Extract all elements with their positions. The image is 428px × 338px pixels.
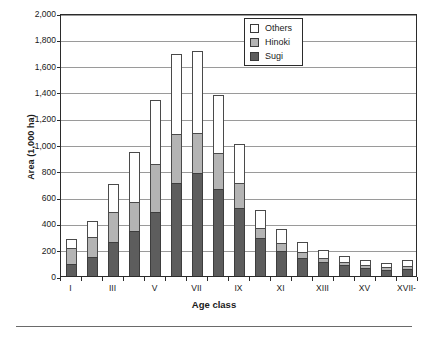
x-axis-tick — [144, 277, 145, 281]
bar-segment-hinoki — [234, 183, 246, 207]
legend-item-hinoki: Hinoki — [250, 37, 292, 47]
bar-XIII — [318, 250, 330, 276]
x-axis-tick-label: VII — [191, 283, 201, 293]
bar-segment-others — [150, 100, 162, 164]
legend-item-others: Others — [250, 23, 292, 33]
y-axis-tick-label: 600 — [2, 193, 56, 203]
x-axis-tick — [102, 277, 103, 281]
x-axis-tick — [354, 277, 355, 281]
x-axis-tick — [60, 277, 61, 281]
bar-series-group — [61, 15, 416, 276]
bar-segment-sugi — [297, 258, 309, 276]
legend-item-label: Hinoki — [265, 37, 290, 47]
bar-VI — [171, 54, 183, 276]
y-axis-tick-label: 1,400 — [2, 88, 56, 98]
x-axis-tick-label: XV — [359, 283, 370, 293]
y-axis-tick-label: 0 — [2, 272, 56, 282]
bar-segment-others — [171, 54, 183, 134]
x-axis-tick — [186, 277, 187, 281]
x-axis-tick — [270, 277, 271, 281]
bar-segment-sugi — [360, 268, 372, 276]
legend-swatch-others — [250, 24, 259, 33]
y-axis-tick-label: 2,000 — [2, 9, 56, 19]
bar-segment-sugi — [234, 208, 246, 276]
y-axis-tick-label: 400 — [2, 219, 56, 229]
legend-item-sugi: Sugi — [250, 51, 292, 61]
x-axis-tick-label: V — [152, 283, 158, 293]
bar-X — [255, 210, 267, 276]
bar-segment-others — [318, 250, 330, 258]
x-axis-tick — [123, 277, 124, 281]
x-axis-tick — [312, 277, 313, 281]
x-axis-tick — [165, 277, 166, 281]
y-axis-tick-label: 1,600 — [2, 62, 56, 72]
bar-VIII — [213, 95, 225, 276]
bar-segment-sugi — [381, 270, 393, 276]
x-axis-tick-label: XI — [276, 283, 284, 293]
bar-II — [87, 221, 99, 276]
bar-segment-others — [255, 210, 267, 228]
bar-XIV — [339, 256, 351, 276]
bar-XI — [276, 229, 288, 276]
plot-area — [60, 14, 417, 277]
legend: OthersHinokiSugi — [244, 18, 303, 66]
bar-I — [66, 239, 78, 276]
bar-segment-others — [234, 144, 246, 183]
bar-segment-others — [108, 184, 120, 212]
bar-segment-sugi — [318, 262, 330, 276]
x-axis-tick — [291, 277, 292, 281]
bar-segment-hinoki — [129, 202, 141, 231]
bar-segment-hinoki — [213, 153, 225, 189]
x-axis-title: Age class — [0, 299, 428, 310]
bar-segment-sugi — [171, 183, 183, 276]
bar-segment-others — [297, 242, 309, 252]
bar-segment-others — [87, 221, 99, 237]
bar-segment-hinoki — [192, 133, 204, 174]
legend-swatch-sugi — [250, 52, 259, 61]
bar-segment-others — [66, 239, 78, 248]
bar-III — [108, 184, 120, 276]
y-axis-tick-label: 1,000 — [2, 141, 56, 151]
bar-XV — [360, 260, 372, 276]
x-axis-tick-label: XIII — [316, 283, 329, 293]
bar-segment-sugi — [192, 173, 204, 276]
bar-segment-hinoki — [150, 164, 162, 211]
x-axis-tick — [333, 277, 334, 281]
x-axis-tick-label: I — [69, 283, 71, 293]
bar-segment-hinoki — [276, 243, 288, 251]
x-axis-tick-label: XVII- — [397, 283, 416, 293]
bar-segment-others — [276, 229, 288, 243]
legend-item-label: Others — [265, 23, 292, 33]
bar-segment-sugi — [150, 212, 162, 276]
legend-swatch-hinoki — [250, 38, 259, 47]
y-axis-tick-label: 1,200 — [2, 114, 56, 124]
bar-segment-others — [192, 51, 204, 133]
bottom-divider — [16, 326, 412, 327]
bar-IV — [129, 152, 141, 276]
y-axis-tick-label: 200 — [2, 246, 56, 256]
bar-VII — [192, 51, 204, 276]
bar-segment-sugi — [108, 242, 120, 276]
bar-IX — [234, 144, 246, 276]
x-axis-tick — [375, 277, 376, 281]
x-axis-tick-label: III — [109, 283, 116, 293]
x-axis-tick — [228, 277, 229, 281]
bar-XII — [297, 242, 309, 276]
chart-figure: Area (1,000 ha) 02004006008001,0001,2001… — [0, 0, 428, 338]
bar-segment-sugi — [213, 189, 225, 276]
bar-segment-sugi — [129, 231, 141, 276]
bar-segment-sugi — [402, 269, 414, 276]
bar-XVI — [381, 263, 393, 276]
bar-segment-others — [129, 152, 141, 202]
bar-segment-hinoki — [255, 228, 267, 238]
x-axis-tick — [396, 277, 397, 281]
x-axis-tick-label: IX — [234, 283, 242, 293]
bar-segment-sugi — [66, 264, 78, 276]
bar-segment-sugi — [87, 257, 99, 276]
x-axis-tick — [81, 277, 82, 281]
legend-item-label: Sugi — [265, 51, 283, 61]
bar-segment-hinoki — [66, 248, 78, 264]
bar-segment-others — [213, 95, 225, 154]
bar-segment-sugi — [339, 265, 351, 276]
bar-segment-sugi — [255, 238, 267, 276]
